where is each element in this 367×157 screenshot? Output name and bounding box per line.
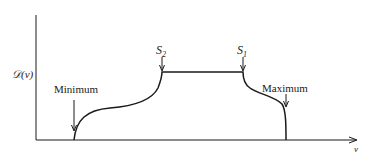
distribution-curve xyxy=(74,72,286,140)
x-axis-label: v xyxy=(354,145,358,154)
diagram-canvas xyxy=(0,0,367,157)
s1-label: S1 xyxy=(237,44,247,59)
minimum-label: Minimum xyxy=(54,84,98,95)
minimum-arrow-icon xyxy=(72,100,77,131)
maximum-label: Maximum xyxy=(262,83,308,94)
maximum-arrow-icon xyxy=(284,94,289,107)
s1-label-sub: 1 xyxy=(243,50,247,59)
y-axis-label: 𝒟(v) xyxy=(12,69,33,80)
s2-label: S2 xyxy=(156,44,166,59)
s2-label-sub: 2 xyxy=(162,50,166,59)
